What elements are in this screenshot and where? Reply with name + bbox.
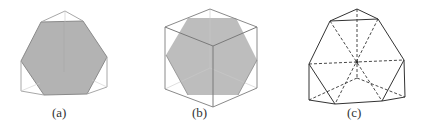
figure-a-top-cap: [41, 11, 83, 22]
figure-b-hexagon-fill: [166, 18, 257, 95]
figure-b-cube: [165, 9, 257, 107]
figure-c-caption: (c): [347, 106, 361, 119]
figure-a-caption: (a): [52, 106, 66, 119]
figure-b-caption: (b): [192, 106, 207, 119]
figure-c-center-point: [356, 61, 359, 64]
figure-c-dashed-edges: [309, 9, 405, 104]
figure-c-wireframe: [309, 9, 405, 104]
figure-a-truncated-solid: [21, 11, 107, 95]
